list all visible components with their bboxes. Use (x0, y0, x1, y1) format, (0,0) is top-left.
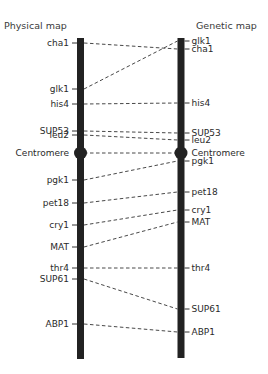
physical-label-thr4: thr4 (50, 263, 69, 273)
physical-label-cha1: cha1 (47, 38, 69, 48)
genetic-label-cry1: cry1 (192, 205, 212, 215)
genetic-label-pet18: pet18 (192, 187, 219, 197)
physical-label-glk1: glk1 (50, 84, 69, 94)
connection-leu2 (84, 135, 178, 140)
physical-label-pet18: pet18 (43, 198, 70, 208)
physical-map: cha1glk1his4SUP53leu2Centromerepgk1pet18… (16, 38, 87, 359)
connection-cry1 (84, 210, 178, 225)
genetic-centromere-dot (175, 147, 188, 160)
connection-pgk1 (84, 161, 178, 180)
connection-sup53 (84, 131, 178, 133)
connection-pet18 (84, 192, 178, 203)
physical-label-his4: his4 (50, 99, 69, 109)
genetic-label-pgk1: pgk1 (192, 156, 214, 166)
physical-label-sup61: SUP61 (40, 274, 69, 284)
physical-chromosome-bar (77, 38, 84, 359)
genetic-map-title: Genetic map (196, 20, 257, 31)
physical-label-mat: MAT (50, 242, 69, 252)
genetic-map: glk1cha1his4SUP53leu2Centromerepgk1pet18… (175, 36, 246, 358)
connection-mat (84, 222, 178, 247)
connection-his4 (84, 103, 178, 104)
physical-label-abp1: ABP1 (46, 319, 69, 329)
physical-centromere-dot (74, 147, 87, 160)
genetic-label-his4: his4 (192, 98, 211, 108)
physical-label-pgk1: pgk1 (47, 175, 69, 185)
connection-cha1 (84, 43, 178, 49)
genetic-label-cha1: cha1 (192, 44, 214, 54)
genetic-label-abp1: ABP1 (192, 327, 215, 337)
connection-sup61 (84, 279, 178, 309)
physical-label-centromere: Centromere (16, 148, 70, 158)
physical-label-leu2: leu2 (50, 130, 69, 140)
genetic-label-thr4: thr4 (192, 263, 211, 273)
marker-connections (84, 41, 178, 332)
genetic-label-sup61: SUP61 (192, 304, 221, 314)
physical-label-cry1: cry1 (49, 220, 69, 230)
genetic-label-mat: MAT (192, 217, 211, 227)
genetic-label-leu2: leu2 (192, 135, 211, 145)
physical-map-title: Physical map (4, 20, 67, 31)
chromosome-map-diagram: Physical map Genetic map cha1glk1his4SUP… (0, 0, 268, 374)
connection-abp1 (84, 324, 178, 332)
genetic-chromosome-bar (178, 38, 185, 358)
